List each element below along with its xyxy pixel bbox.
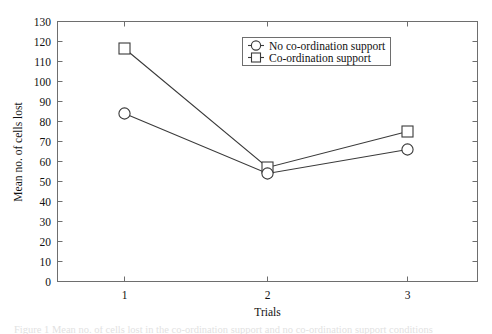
figure-container: 130 120 110 100 90 80 70 60 50 40 30 20 … [0, 0, 492, 334]
data-point-marker [402, 126, 413, 137]
circle-marker-icon [251, 41, 260, 50]
x-axis-title: Trials [254, 306, 281, 318]
y-tick-label: 20 [40, 236, 52, 248]
y-tick-label: 120 [34, 36, 52, 48]
figure-caption: Figure 1 Mean no. of cells lost in the c… [14, 326, 484, 334]
y-tick-label: 40 [40, 196, 52, 208]
x-tick-label: 1 [122, 289, 128, 301]
y-tick-label: 60 [40, 156, 52, 168]
y-tick-label: 100 [34, 76, 52, 88]
figure-caption-strip: Figure 1 Mean no. of cells lost in the c… [0, 326, 492, 334]
y-tick-label: 50 [40, 176, 52, 188]
y-tick-label: 30 [40, 216, 52, 228]
data-point-marker [119, 43, 130, 54]
y-tick-label: 110 [34, 56, 51, 68]
square-marker-icon [252, 53, 261, 62]
line-chart: 130 120 110 100 90 80 70 60 50 40 30 20 … [0, 0, 492, 334]
y-tick-label: 0 [45, 276, 51, 288]
x-tick-label: 3 [405, 289, 411, 301]
legend-label: Co-ordination support [269, 52, 372, 65]
legend: No co-ordination support Co-ordination s… [243, 38, 391, 66]
y-tick-label: 10 [40, 256, 52, 268]
x-tick-labels: 1 2 3 [122, 289, 411, 301]
x-tick-label: 2 [265, 289, 271, 301]
y-tick-label: 130 [34, 16, 52, 28]
y-tick-label: 80 [40, 116, 52, 128]
data-point-marker [402, 144, 413, 155]
data-point-marker [119, 108, 130, 119]
y-tick-labels: 130 120 110 100 90 80 70 60 50 40 30 20 … [34, 16, 52, 288]
y-axis-title: Mean no. of cells lost [12, 102, 24, 202]
data-point-marker [262, 168, 273, 179]
y-tick-label: 70 [40, 136, 52, 148]
y-tick-label: 90 [40, 96, 52, 108]
